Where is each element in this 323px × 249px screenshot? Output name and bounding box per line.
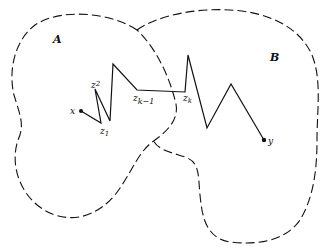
point-zk-1-label: zk−1 (132, 93, 154, 106)
diagram-canvas: A B x y z1 z2 zk−1 zk (0, 0, 323, 249)
point-z1-label: z1 (99, 126, 109, 138)
point-zk-label: zk (182, 93, 192, 105)
region-a-boundary (12, 14, 177, 218)
point-y-dot (262, 138, 266, 142)
region-b-boundary (137, 10, 318, 243)
polygonal-path (81, 55, 264, 140)
region-b-label: B (269, 51, 279, 64)
point-y-label: y (267, 136, 274, 146)
point-z2-label: z2 (90, 80, 101, 90)
point-x-label: x (70, 106, 75, 116)
point-x-dot (79, 109, 83, 113)
region-a-label: A (52, 33, 62, 46)
